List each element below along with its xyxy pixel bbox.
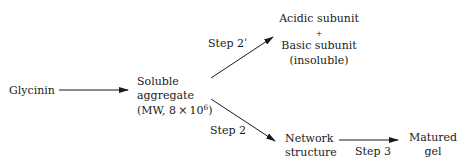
- node-glycinin: Glycinin: [9, 84, 55, 97]
- subunits-basic: Basic subunit: [272, 39, 366, 52]
- label-step-2: Step 2: [210, 124, 246, 137]
- mw-suffix: ): [208, 104, 212, 117]
- arrows-layer: [0, 0, 465, 166]
- subunits-insoluble: (insoluble): [272, 54, 366, 67]
- soluble-aggregate-line2: aggregate: [137, 89, 194, 102]
- mw-prefix: (MW, 8 × 10: [137, 104, 204, 117]
- soluble-aggregate-mw: (MW, 8 × 106): [137, 104, 213, 117]
- matured-gel-line2: gel: [402, 145, 464, 158]
- matured-gel-line1: Matured: [402, 131, 464, 144]
- network-line2: structure: [285, 146, 337, 159]
- label-step-2-prime: Step 2ˈ: [208, 37, 247, 50]
- subunits-acidic: Acidic subunit: [272, 12, 366, 25]
- soluble-aggregate-line1: Soluble: [137, 75, 179, 88]
- network-line1: Network: [285, 132, 334, 145]
- label-step-3: Step 3: [355, 145, 391, 158]
